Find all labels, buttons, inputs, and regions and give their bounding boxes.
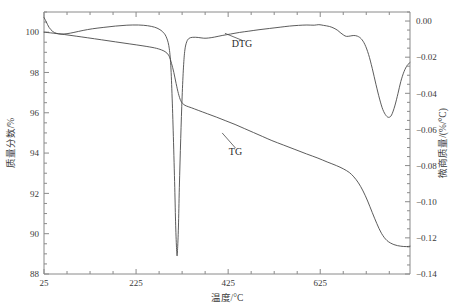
y-tick-label: 98 [30,68,40,78]
y-axis-title: 质量分数/% [5,118,16,169]
y-tick-label: 94 [30,148,40,158]
annotation-label-dtg: DTG [232,38,253,49]
y-tick-label: 88 [30,269,40,279]
tga-dtg-chart: 25225425625温度/°C889092949698100质量分数/%0.0… [0,0,455,308]
y2-tick-label: −0.04 [416,89,437,99]
series-curve-tg [44,32,410,246]
y2-tick-label: −0.12 [416,233,437,243]
plot-frame [44,12,410,274]
y-tick-label: 92 [30,189,39,199]
y2-axis-title: 微商质量/(%/°C) [437,108,449,178]
x-axis: 25225425625温度/°C [40,12,390,303]
y2-tick-label: −0.14 [416,269,437,279]
series-curve-dtg [44,17,410,256]
x-tick-label: 25 [40,278,50,288]
y-tick-label: 100 [26,27,40,37]
y-axis-left: 889092949698100质量分数/% [5,12,49,279]
y-axis-right: 0.00−0.02−0.04−0.06−0.08−0.10−0.12−0.14微… [405,12,449,279]
y2-tick-label: 0.00 [416,16,432,26]
x-tick-label: 225 [129,278,143,288]
y-tick-label: 90 [30,229,40,239]
y2-tick-label: −0.10 [416,197,437,207]
y2-tick-label: −0.08 [416,161,437,171]
x-tick-label: 625 [313,278,327,288]
chart-svg: 25225425625温度/°C889092949698100质量分数/%0.0… [0,0,455,308]
y2-tick-label: −0.02 [416,52,437,62]
x-tick-label: 425 [221,278,235,288]
y2-tick-label: −0.06 [416,125,437,135]
y-tick-label: 96 [30,108,40,118]
annotation-label-tg: TG [229,146,242,157]
x-axis-title: 温度/°C [211,292,244,303]
